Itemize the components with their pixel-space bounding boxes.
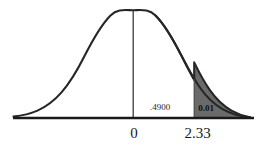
normal-distribution-figure: .4900 0.01 0 2.33 bbox=[0, 0, 261, 149]
tail-area-label: 0.01 bbox=[192, 104, 220, 113]
body-area-label: .4900 bbox=[140, 103, 180, 112]
x-tick-label-critical-value: 2.33 bbox=[175, 126, 220, 141]
x-tick-label-mean: 0 bbox=[114, 126, 154, 141]
